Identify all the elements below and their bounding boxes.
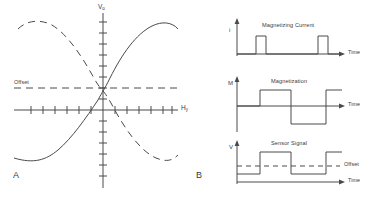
sensor-signal-plot-group <box>235 140 345 184</box>
plot1-y-arrow <box>235 18 240 24</box>
plot3-waveform <box>237 152 342 174</box>
plot1-title: Magnetizing Current <box>262 22 314 28</box>
plot3-title: Sensor Signal <box>271 140 307 146</box>
panel-a-y-axis-label: Vo <box>98 3 105 11</box>
plot1-time-label: Time <box>348 49 360 55</box>
figure-container: Vo Hy Offset A i Magnetizing Current Tim… <box>0 0 371 197</box>
plot3-y-arrow <box>235 140 240 146</box>
panel-b-letter: B <box>196 170 203 180</box>
panel-a-dashed-curve <box>18 21 178 160</box>
plot1-waveform <box>237 36 340 54</box>
plot1-y-axis-label: i <box>229 27 230 33</box>
plot3-x-arrow <box>339 180 345 185</box>
diagram-svg <box>0 0 371 197</box>
plot3-y-axis-label: V <box>229 144 233 150</box>
plot3-time-label: Time <box>348 177 360 183</box>
panel-a-letter: A <box>13 170 20 180</box>
panel-a-group <box>14 13 178 188</box>
magnetization-plot-group <box>235 76 345 132</box>
panel-a-solid-curve <box>14 23 178 161</box>
plot3-offset-label: Offset <box>344 161 359 167</box>
plot2-time-label: Time <box>348 101 360 107</box>
panel-a-offset-label: Offset <box>14 79 29 85</box>
plot2-title: Magnetization <box>271 78 307 84</box>
panel-b-group <box>235 18 345 184</box>
plot2-waveform <box>237 90 342 124</box>
panel-a-x-axis-label: Hy <box>181 104 188 112</box>
plot2-y-arrow <box>235 76 240 82</box>
plot2-y-axis-label: M <box>228 80 233 86</box>
plot2-x-arrow <box>339 104 345 109</box>
